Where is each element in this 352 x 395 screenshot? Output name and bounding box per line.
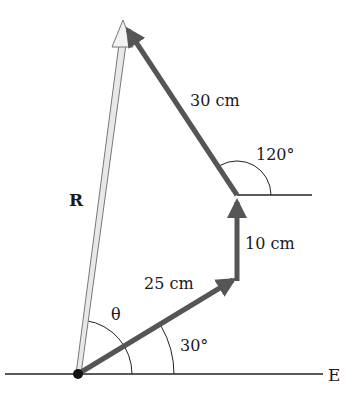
vector-30cm — [128, 30, 237, 195]
resultant-arrow — [76, 20, 133, 374]
label-120deg: 120° — [256, 145, 295, 164]
vector-diagram: E R 30 cm 10 cm 25 cm 120° θ 30° — [0, 0, 352, 395]
label-resultant: R — [69, 190, 84, 210]
label-25cm: 25 cm — [144, 274, 194, 293]
origin-point — [73, 369, 83, 379]
label-30cm: 30 cm — [190, 91, 240, 110]
axis-label-e: E — [328, 365, 340, 385]
label-theta: θ — [111, 305, 121, 324]
angle-30-arc — [161, 326, 174, 374]
label-30deg: 30° — [180, 336, 208, 355]
label-10cm: 10 cm — [245, 234, 295, 253]
vector-25cm — [78, 280, 233, 374]
